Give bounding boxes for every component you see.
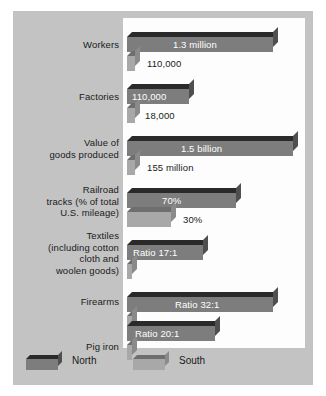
bar-side-bevel — [135, 150, 140, 170]
bar-side-bevel — [203, 235, 208, 255]
north-value-label-workers: 1.3 million — [173, 37, 217, 52]
legend-label-south: South — [179, 354, 205, 368]
north-value-label-pig-iron: Ratio 20:1 — [135, 326, 179, 341]
bar-rows: 1.3 million 110,000 110,000 — [123, 18, 319, 348]
bar-face — [127, 212, 171, 227]
label-line: tracks (% of total — [13, 196, 119, 208]
label-line: woolen goods) — [13, 265, 119, 277]
label-line: goods produced — [13, 149, 119, 161]
north-value-label-firearms: Ratio 32:1 — [175, 297, 219, 312]
label-line: Factories — [13, 91, 119, 103]
bar-side-bevel — [135, 46, 140, 66]
north-swatch-icon — [26, 355, 58, 366]
label-line: Railroad — [13, 184, 119, 196]
bar-face — [127, 264, 132, 279]
bar-face — [127, 193, 236, 208]
label-line: Value of — [13, 137, 119, 149]
chart-legend: North South — [13, 351, 313, 375]
category-label-value-of-goods: Value of goods produced — [13, 137, 119, 160]
bar-side-bevel — [215, 316, 220, 336]
north-value-label-value-of-goods: 1.5 billion — [181, 141, 222, 156]
label-line: cloth and — [13, 253, 119, 265]
bar-face — [127, 108, 135, 123]
swatch-face — [26, 359, 58, 370]
category-label-railroad-tracks: Railroad tracks (% of total U.S. mileage… — [13, 184, 119, 219]
south-value-label-railroad-tracks: 30% — [183, 212, 202, 227]
category-label-column: Workers Factories Value of goods produce… — [13, 18, 119, 348]
south-swatch-icon — [133, 355, 165, 366]
swatch-face — [133, 359, 165, 370]
category-label-factories: Factories — [13, 91, 119, 103]
swatch-side-bevel — [58, 351, 62, 366]
chart-root: Workers Factories Value of goods produce… — [0, 0, 326, 396]
chart-card: Workers Factories Value of goods produce… — [13, 11, 313, 385]
label-line: Workers — [13, 39, 119, 51]
label-line: Textiles — [13, 230, 119, 242]
north-value-label-textiles: Ratio 17:1 — [133, 245, 177, 260]
south-value-label-factories: 18,000 — [145, 108, 175, 123]
label-line: (including cotton — [13, 242, 119, 254]
category-label-firearms: Firearms — [13, 296, 119, 308]
south-bar-workers[interactable] — [127, 51, 135, 66]
south-bar-value-of-goods[interactable] — [127, 155, 135, 170]
category-label-textiles: Textiles (including cotton cloth and woo… — [13, 230, 119, 276]
north-bar-railroad-tracks[interactable] — [127, 188, 236, 203]
north-value-label-railroad-tracks: 70% — [162, 193, 181, 208]
label-line: U.S. mileage) — [13, 207, 119, 219]
category-label-workers: Workers — [13, 39, 119, 51]
south-value-label-workers: 110,000 — [147, 56, 181, 71]
bar-face — [127, 160, 135, 175]
swatch-side-bevel — [165, 351, 169, 366]
label-line: Firearms — [13, 296, 119, 308]
south-value-label-value-of-goods: 155 million — [147, 160, 194, 175]
legend-label-north: North — [72, 354, 96, 368]
bar-side-bevel — [273, 287, 278, 307]
north-value-label-factories: 110,000 — [132, 89, 166, 104]
bar-face — [127, 56, 135, 71]
south-bar-textiles[interactable] — [127, 259, 132, 274]
bar-side-bevel — [189, 79, 194, 99]
bar-side-bevel — [273, 27, 278, 47]
south-bar-factories[interactable] — [127, 103, 135, 118]
bar-side-bevel — [293, 131, 298, 151]
bar-side-bevel — [236, 183, 241, 203]
south-bar-railroad-tracks[interactable] — [127, 207, 171, 222]
